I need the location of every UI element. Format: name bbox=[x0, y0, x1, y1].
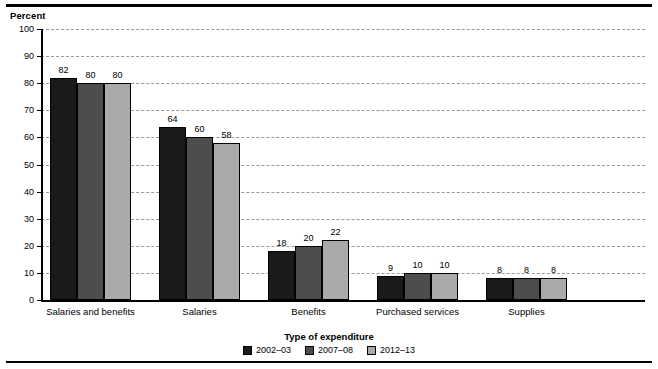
bar bbox=[431, 273, 458, 300]
bar-value-label: 80 bbox=[112, 70, 122, 80]
gridline bbox=[41, 29, 645, 30]
legend-item[interactable]: 2002–03 bbox=[243, 345, 291, 355]
category-label: Benefits bbox=[291, 306, 325, 317]
y-tick-label: 10 bbox=[24, 268, 34, 278]
legend-swatch bbox=[243, 346, 252, 355]
bar bbox=[104, 83, 131, 300]
bar bbox=[159, 127, 186, 300]
chart-legend: 2002–032007–082012–13 bbox=[0, 345, 658, 355]
bar-value-label: 10 bbox=[439, 260, 449, 270]
bar bbox=[486, 278, 513, 300]
category-label: Salaries bbox=[182, 306, 216, 317]
category-label: Supplies bbox=[508, 306, 544, 317]
y-tick-label: 50 bbox=[24, 160, 34, 170]
y-tick-label: 0 bbox=[29, 295, 34, 305]
y-tick-label: 100 bbox=[19, 24, 34, 34]
legend-item[interactable]: 2012–13 bbox=[367, 345, 415, 355]
gridline bbox=[41, 219, 645, 220]
gridline bbox=[41, 83, 645, 84]
y-tick-label: 40 bbox=[24, 187, 34, 197]
legend-swatch bbox=[305, 346, 314, 355]
bar bbox=[213, 143, 240, 300]
gridline bbox=[41, 137, 645, 138]
bar bbox=[377, 276, 404, 300]
bar-value-label: 8 bbox=[551, 265, 556, 275]
bar-value-label: 8 bbox=[524, 265, 529, 275]
bar-value-label: 64 bbox=[167, 114, 177, 124]
bar bbox=[77, 83, 104, 300]
bar-value-label: 80 bbox=[85, 70, 95, 80]
bar-value-label: 58 bbox=[221, 130, 231, 140]
gridline bbox=[41, 56, 645, 57]
bar bbox=[513, 278, 540, 300]
bar-value-label: 82 bbox=[58, 65, 68, 75]
y-tick-label: 20 bbox=[24, 241, 34, 251]
x-axis-title: Type of expenditure bbox=[0, 331, 658, 342]
bar-value-label: 8 bbox=[497, 265, 502, 275]
bar bbox=[404, 273, 431, 300]
legend-label: 2012–13 bbox=[380, 345, 415, 355]
y-tick-label: 60 bbox=[24, 132, 34, 142]
bar-value-label: 10 bbox=[412, 260, 422, 270]
bar-value-label: 60 bbox=[194, 124, 204, 134]
bar bbox=[322, 240, 349, 300]
category-label: Purchased services bbox=[376, 306, 459, 317]
gridline bbox=[41, 110, 645, 111]
y-axis-title: Percent bbox=[10, 10, 46, 21]
bottom-divider-rule bbox=[6, 361, 652, 363]
y-tick-label: 90 bbox=[24, 51, 34, 61]
y-tick-label: 80 bbox=[24, 78, 34, 88]
bar-value-label: 9 bbox=[388, 263, 393, 273]
y-tick-label: 30 bbox=[24, 214, 34, 224]
bar-value-label: 18 bbox=[276, 238, 286, 248]
legend-label: 2007–08 bbox=[318, 345, 353, 355]
y-axis-spine bbox=[41, 29, 43, 301]
bar bbox=[50, 78, 77, 300]
bar bbox=[186, 137, 213, 300]
legend-item[interactable]: 2007–08 bbox=[305, 345, 353, 355]
top-divider-rule bbox=[6, 4, 652, 7]
x-axis-spine bbox=[41, 300, 645, 302]
legend-label: 2002–03 bbox=[256, 345, 291, 355]
legend-swatch bbox=[367, 346, 376, 355]
bar bbox=[268, 251, 295, 300]
category-label: Salaries and benefits bbox=[46, 306, 135, 317]
gridline bbox=[41, 192, 645, 193]
bar-value-label: 22 bbox=[330, 227, 340, 237]
chart-figure: Percent 01020304050607080901008280806460… bbox=[0, 0, 658, 369]
plot-area: 0102030405060708090100828080646058182022… bbox=[41, 29, 645, 300]
gridline bbox=[41, 165, 645, 166]
bar bbox=[540, 278, 567, 300]
bar bbox=[295, 246, 322, 300]
bar-value-label: 20 bbox=[303, 233, 313, 243]
y-tick-label: 70 bbox=[24, 105, 34, 115]
